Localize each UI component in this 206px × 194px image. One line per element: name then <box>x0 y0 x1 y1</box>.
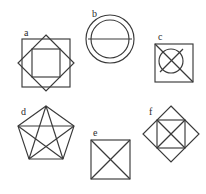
figure-c-label: c <box>158 32 162 42</box>
figure-b <box>86 15 134 63</box>
figure-e-label: e <box>93 128 97 138</box>
figure-d-label: d <box>21 107 26 117</box>
figure-d-diagonal-2 <box>29 106 46 159</box>
figure-d <box>18 106 74 159</box>
figure-d-diagonal-5 <box>18 126 63 159</box>
figure-c <box>155 44 193 82</box>
figure-d-diagonal-3 <box>29 126 74 159</box>
figure-d-diagonal-1 <box>46 106 63 159</box>
figure-board: a b c d e f <box>0 0 206 194</box>
figure-e <box>91 140 130 179</box>
figure-f-label: f <box>149 107 152 117</box>
figure-a <box>18 35 74 91</box>
figures-canvas <box>0 0 206 194</box>
figure-a-inner-square <box>32 49 60 77</box>
figure-a-outer-square <box>22 39 70 87</box>
figure-a-label: a <box>24 28 28 38</box>
figure-b-label: b <box>92 9 97 19</box>
figure-a-diamond <box>18 35 74 91</box>
